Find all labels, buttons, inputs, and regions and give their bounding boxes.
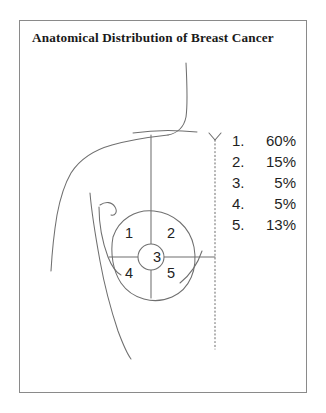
legend-row: 4. 5% [232, 195, 298, 216]
legend-index: 4. [232, 195, 252, 212]
legend-value: 15% [252, 153, 296, 170]
legend-value: 5% [252, 195, 296, 212]
quadrant-label-3: 3 [144, 250, 170, 265]
legend-row: 5. 13% [232, 216, 298, 237]
legend-value: 5% [252, 174, 296, 191]
legend-value: 60% [252, 132, 296, 149]
armpit-inner-fold [99, 207, 121, 275]
legend: 1. 60% 2. 15% 3. 5% 4. 5% 5. 13% [232, 132, 298, 237]
legend-row: 2. 15% [232, 153, 298, 174]
midline-hook [209, 133, 221, 140]
legend-index: 2. [232, 153, 252, 170]
legend-row: 1. 60% [232, 132, 298, 153]
legend-value: 13% [252, 216, 296, 233]
quadrant-label-2: 2 [164, 226, 178, 241]
armpit-fold [100, 203, 116, 216]
quadrant-label-1: 1 [122, 226, 136, 241]
legend-row: 3. 5% [232, 174, 298, 195]
legend-index: 5. [232, 216, 252, 233]
clavicle-line [133, 131, 197, 133]
legend-index: 1. [232, 132, 252, 149]
quadrant-label-5: 5 [164, 266, 178, 281]
neck-outline [168, 63, 187, 135]
figure-frame: Anatomical Distribution of Breast Cancer [19, 20, 307, 393]
legend-index: 3. [232, 174, 252, 191]
quadrant-label-4: 4 [122, 266, 136, 281]
